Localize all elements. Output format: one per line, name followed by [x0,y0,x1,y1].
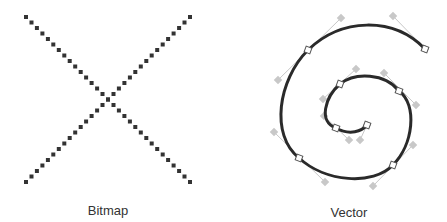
anchor-point [395,87,403,95]
bezier-handles [270,12,429,190]
anchor-point [421,45,429,53]
anchor-point [304,46,312,54]
anchor-point [389,161,397,169]
anchor-point [336,80,344,88]
anchor-point [295,154,303,162]
anchor-point [332,124,340,132]
bitmap-label: Bitmap [88,203,128,218]
anchor-point [363,121,371,129]
bitmap-vs-vector-diagram: Bitmap Vector [0,0,447,222]
vector-label: Vector [331,205,368,220]
handle-point [356,136,364,144]
vector-spiral-figure [0,0,447,222]
